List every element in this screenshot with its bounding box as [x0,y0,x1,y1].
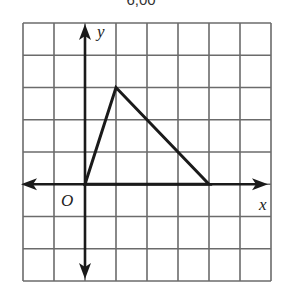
grid [23,23,271,281]
cropped-caption: 6,00 [0,0,282,8]
coordinate-figure: 6,00 x y O [0,0,282,296]
origin-label: O [61,191,73,210]
coordinate-plane: x y O [0,0,282,296]
x-axis-label: x [258,195,267,214]
y-axis-label: y [95,22,105,41]
